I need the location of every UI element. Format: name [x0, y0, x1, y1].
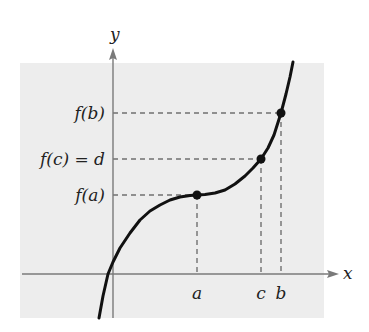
point-b — [277, 109, 286, 118]
ivt-diagram: y x f(b) f(c) = d f(a) a c b — [0, 0, 369, 332]
point-c — [257, 155, 266, 164]
y-label-fb: f(b) — [73, 103, 105, 123]
x-label-b: b — [276, 283, 287, 303]
diagram-canvas: y x f(b) f(c) = d f(a) a c b — [0, 0, 369, 332]
y-label-fc-d: f(c) = d — [38, 149, 105, 169]
plot-background — [20, 63, 324, 318]
x-label-c: c — [256, 283, 266, 303]
x-label-a: a — [192, 283, 202, 303]
point-a — [193, 191, 202, 200]
y-label-fa: f(a) — [73, 185, 105, 205]
x-axis-label: x — [343, 263, 353, 283]
y-axis-label: y — [109, 24, 120, 44]
